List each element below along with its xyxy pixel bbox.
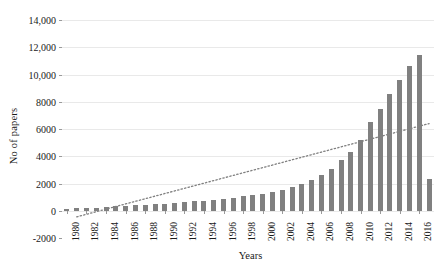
- x-tick-label: 2002: [286, 222, 296, 241]
- plot-area: 14,00012,00010,00080006000400020000-2000…: [62, 20, 434, 238]
- x-tick-mark: [184, 211, 185, 214]
- x-axis-title: Years: [62, 250, 439, 261]
- x-tick-label: 1984: [110, 222, 120, 241]
- x-tick-label: 2000: [267, 222, 277, 241]
- x-tick-mark: [224, 211, 225, 214]
- x-tick-label: 2008: [345, 222, 355, 241]
- x-tick-mark: [145, 211, 146, 214]
- x-tick-label: 1998: [247, 222, 257, 241]
- x-tick-label: 1992: [188, 222, 198, 241]
- x-tick-mark: [302, 211, 303, 214]
- x-tick-label: 2016: [423, 222, 433, 241]
- y-tick-mark: [59, 238, 62, 239]
- x-tick-label: 1988: [149, 222, 159, 241]
- x-tick-mark: [126, 211, 127, 214]
- trendline: [62, 20, 434, 238]
- bar-chart-figure: No of papers 14,00012,00010,000800060004…: [0, 0, 439, 272]
- x-tick-mark: [282, 211, 283, 214]
- x-tick-mark: [400, 211, 401, 214]
- trendline-path: [77, 124, 429, 217]
- x-tick-mark: [263, 211, 264, 214]
- x-tick-label: 1980: [71, 222, 81, 241]
- x-tick-label: 1996: [228, 222, 238, 241]
- y-tick-label: 6000: [36, 124, 56, 135]
- x-tick-label: 2014: [404, 222, 414, 241]
- x-tick-mark: [204, 211, 205, 214]
- x-tick-label: 2010: [365, 222, 375, 241]
- y-tick-label: 2000: [36, 178, 56, 189]
- x-tick-mark: [243, 211, 244, 214]
- x-tick-mark: [67, 211, 68, 214]
- y-tick-label: 4000: [36, 151, 56, 162]
- y-tick-label: 8000: [36, 96, 56, 107]
- y-tick-label: 10,000: [29, 69, 57, 80]
- x-tick-label: 1990: [169, 222, 179, 241]
- x-tick-mark: [86, 211, 87, 214]
- y-tick-label: 12,000: [29, 42, 57, 53]
- x-tick-label: 2012: [384, 222, 394, 241]
- x-tick-label: 2006: [325, 222, 335, 241]
- x-tick-label: 1982: [90, 222, 100, 241]
- x-tick-mark: [361, 211, 362, 214]
- x-tick-label: 2004: [306, 222, 316, 241]
- x-tick-mark: [321, 211, 322, 214]
- x-tick-mark: [380, 211, 381, 214]
- x-tick-mark: [106, 211, 107, 214]
- y-tick-label: 0: [51, 205, 56, 216]
- y-tick-label: -2000: [33, 233, 56, 244]
- x-tick-mark: [419, 211, 420, 214]
- y-tick-label: 14,000: [29, 15, 57, 26]
- x-tick-mark: [341, 211, 342, 214]
- x-tick-mark: [165, 211, 166, 214]
- x-tick-label: 1986: [130, 222, 140, 241]
- x-tick-label: 1994: [208, 222, 218, 241]
- y-axis-title: No of papers: [0, 0, 26, 272]
